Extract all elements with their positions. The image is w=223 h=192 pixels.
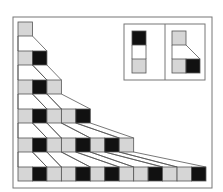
rule-input-cell <box>172 31 186 45</box>
black-cell <box>32 167 46 181</box>
connector-line <box>47 65 61 80</box>
connector-line <box>61 152 90 167</box>
gray-cell <box>18 167 32 181</box>
black-cell <box>32 138 46 152</box>
black-cell <box>76 138 90 152</box>
gray-cell <box>18 22 32 36</box>
gray-cell <box>47 109 61 123</box>
black-cell <box>192 167 206 181</box>
gray-cell <box>90 167 104 181</box>
rule-input-cell <box>132 31 146 45</box>
gray-cell <box>18 80 32 94</box>
black-cell <box>32 80 46 94</box>
rules-inset <box>124 24 205 80</box>
gray-cell <box>134 167 148 181</box>
connector-line <box>32 123 46 138</box>
black-cell <box>105 138 119 152</box>
gray-cell <box>47 80 61 94</box>
connector-line <box>61 123 90 138</box>
gray-cell <box>119 167 133 181</box>
connector-line <box>32 36 46 51</box>
gray-cell <box>18 51 32 65</box>
gray-cell <box>119 138 133 152</box>
black-cell <box>76 109 90 123</box>
gray-cell <box>47 138 61 152</box>
rule-output-cell <box>132 59 146 73</box>
connector-line <box>32 65 46 80</box>
gray-cell <box>61 138 75 152</box>
connector-line <box>32 94 46 109</box>
gray-cell <box>61 167 75 181</box>
rule-output-cell <box>186 59 200 73</box>
substitution-diagram <box>0 0 223 192</box>
gray-cell <box>90 138 104 152</box>
black-cell <box>76 167 90 181</box>
gray-cell <box>18 109 32 123</box>
gray-cell <box>18 138 32 152</box>
connector-line <box>61 94 90 109</box>
gray-cell <box>163 167 177 181</box>
black-cell <box>32 109 46 123</box>
connector-line <box>47 94 61 109</box>
black-cell <box>105 167 119 181</box>
connector-line <box>32 152 46 167</box>
gray-cell <box>177 167 191 181</box>
gray-cell <box>47 167 61 181</box>
rule-output-cell <box>172 59 186 73</box>
gray-cell <box>61 109 75 123</box>
connector-line <box>47 152 61 167</box>
black-cell <box>32 51 46 65</box>
black-cell <box>148 167 162 181</box>
connector-line <box>47 123 61 138</box>
